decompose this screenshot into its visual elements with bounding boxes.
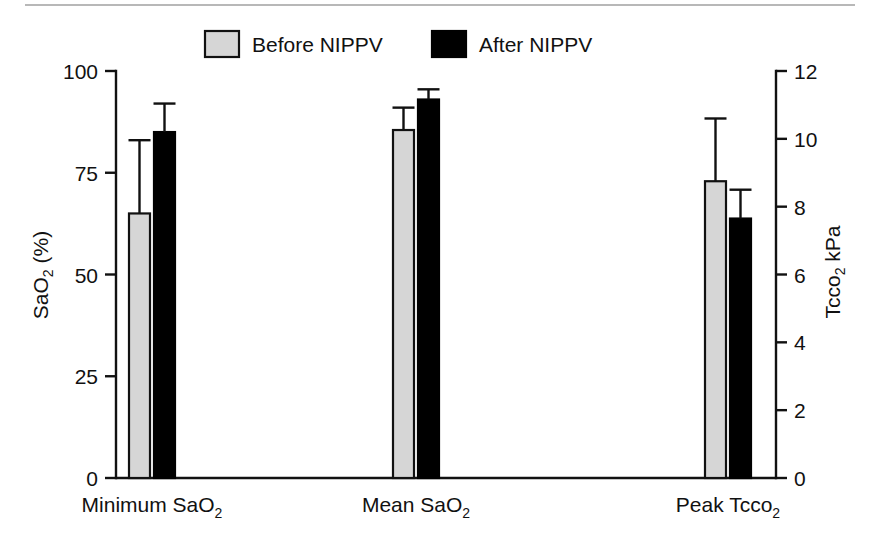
bars-layer — [129, 89, 752, 478]
category-label: Mean SaO2 — [362, 493, 470, 521]
bar-after-nippv — [418, 99, 439, 478]
figure-root: Before NIPPV After NIPPV 0255075100 SaO2… — [0, 0, 872, 540]
right-tick-label: 8 — [794, 196, 806, 219]
left-axis-ticks — [105, 71, 116, 478]
right-axis-title-sub: 2 — [832, 267, 848, 275]
left-tick-label: 75 — [75, 162, 98, 185]
right-tick-label: 10 — [794, 128, 817, 151]
bar-before-nippv — [705, 181, 726, 478]
left-axis-title: SaO2 (%) — [29, 231, 56, 319]
legend-label-after-nippv: After NIPPV — [479, 33, 592, 56]
left-axis-title-suffix: (%) — [29, 231, 52, 270]
right-axis-title: Tcco2 kPa — [821, 225, 848, 318]
category-labels: Minimum SaO2Mean SaO2Peak Tcco2 — [82, 493, 781, 521]
legend-label-before-nippv: Before NIPPV — [252, 33, 383, 56]
right-tick-label: 6 — [794, 264, 806, 287]
right-axis-ticks — [776, 71, 787, 478]
chart-legend: Before NIPPV After NIPPV — [205, 31, 592, 57]
left-tick-label: 25 — [75, 365, 98, 388]
right-tick-label: 2 — [794, 399, 806, 422]
bar-chart: Before NIPPV After NIPPV 0255075100 SaO2… — [0, 0, 872, 540]
bar-after-nippv — [730, 219, 751, 478]
left-axis-title-base: SaO — [29, 277, 52, 319]
right-axis-title-base: Tcco — [821, 275, 844, 318]
legend-swatch-after-nippv — [432, 31, 466, 57]
legend-swatch-before-nippv — [205, 31, 239, 57]
left-tick-label: 0 — [86, 467, 98, 490]
right-axis-title-suffix: kPa — [821, 225, 844, 267]
right-axis: 024681012 Tcco2 kPa — [776, 60, 848, 490]
left-axis-tick-labels: 0255075100 — [63, 60, 98, 490]
left-tick-label: 50 — [75, 264, 98, 287]
left-tick-label: 100 — [63, 60, 98, 83]
right-axis-tick-labels: 024681012 — [794, 60, 817, 490]
bar-before-nippv — [129, 213, 150, 478]
category-label: Peak Tcco2 — [676, 493, 781, 521]
right-tick-label: 0 — [794, 467, 806, 490]
right-tick-label: 12 — [794, 60, 817, 83]
bar-after-nippv — [154, 132, 175, 478]
left-axis: 0255075100 SaO2 (%) — [29, 60, 116, 490]
category-label: Minimum SaO2 — [82, 493, 223, 521]
left-axis-title-sub: 2 — [40, 269, 56, 277]
right-tick-label: 4 — [794, 331, 806, 354]
bar-before-nippv — [393, 130, 414, 478]
